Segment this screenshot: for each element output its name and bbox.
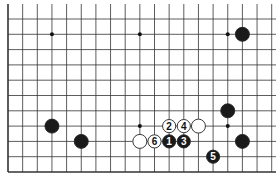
move-number: 3 [181, 136, 187, 147]
star-point [138, 32, 142, 36]
go-board: 123456 [0, 0, 276, 182]
star-point [226, 32, 230, 36]
black-stone [235, 134, 249, 148]
star-point [138, 124, 142, 128]
black-stone [74, 134, 88, 148]
black-stone-3: 3 [177, 135, 190, 148]
black-stone [45, 119, 59, 133]
white-stone [133, 134, 147, 148]
white-stone [191, 119, 205, 133]
black-stone-5: 5 [207, 150, 220, 163]
move-number: 5 [210, 151, 216, 162]
white-stone-4: 4 [177, 120, 190, 133]
black-stone-1: 1 [163, 135, 176, 148]
white-stone-6: 6 [148, 135, 161, 148]
move-number: 6 [152, 136, 158, 147]
move-number: 1 [166, 136, 172, 147]
white-stone-2: 2 [163, 120, 176, 133]
move-number: 4 [181, 121, 187, 132]
black-stone [235, 27, 249, 41]
move-number: 2 [166, 121, 172, 132]
star-point [50, 32, 54, 36]
star-point [226, 124, 230, 128]
black-stone [221, 104, 235, 118]
